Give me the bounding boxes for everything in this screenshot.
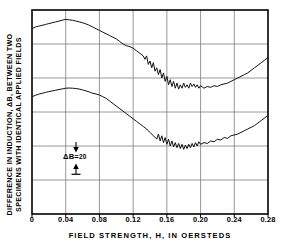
scale-bar-label: ΔB=20 bbox=[63, 152, 87, 161]
x-tick-label: 0.28 bbox=[260, 215, 275, 224]
plot-area bbox=[0, 0, 287, 249]
figure-container: DIFFERENCE IN INDUCTION, ΔB, BETWEEN TWO… bbox=[0, 0, 287, 249]
x-tick-label: 0.12 bbox=[126, 215, 141, 224]
x-axis-label: FIELD STRENGTH, H, IN OERSTEDS bbox=[32, 231, 268, 240]
x-tick-label: 0.24 bbox=[227, 215, 242, 224]
data-series-upper-trace bbox=[32, 19, 268, 89]
x-tick-label: 0 bbox=[30, 215, 34, 224]
gridlines bbox=[32, 10, 268, 214]
data-series-lower-trace bbox=[32, 88, 268, 149]
scale-bar-value: 20 bbox=[79, 153, 87, 160]
x-tick-label: 0.04 bbox=[58, 215, 73, 224]
x-tick-label: 0.16 bbox=[159, 215, 174, 224]
scale-bar-symbol: ΔB= bbox=[63, 152, 79, 161]
x-tick-label: 0.20 bbox=[193, 215, 208, 224]
x-tick-label: 0.08 bbox=[92, 215, 107, 224]
